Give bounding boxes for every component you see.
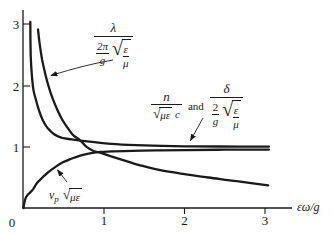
wave-parameters-figure: 3 2 1 0 1 2 3 εω/g λ 2π g √ ε μ	[0, 0, 333, 235]
sqrt-eps-over-mu: √ ε μ	[222, 100, 241, 130]
origin-label: 0	[9, 216, 16, 229]
y-tick-label-1: 1	[13, 141, 20, 154]
and-text: and	[188, 100, 204, 112]
lambda-symbol: λ	[108, 21, 120, 36]
vp-curve-label: vp √ με	[49, 188, 82, 204]
two-pi-over-g-fraction: 2π g	[96, 41, 109, 66]
x-tick-label-1: 1	[101, 214, 108, 227]
sqrt-mu-eps: √ με	[63, 188, 82, 203]
n-symbol: n	[160, 90, 173, 105]
vp-symbol: vp	[49, 188, 59, 204]
vp-label-arrow	[58, 170, 68, 182]
c-symbol: c	[175, 109, 180, 121]
y-tick-label-3: 3	[13, 18, 20, 31]
delta-fraction: δ 2 g √ ε μ	[210, 82, 243, 130]
x-tick-label-2: 2	[181, 214, 188, 227]
x-axis-label: εω/g	[297, 200, 320, 215]
two-over-g-fraction: 2 g	[212, 102, 220, 127]
y-tick-label-2: 2	[13, 80, 20, 93]
sqrt-eps-over-mu: √ ε μ	[112, 39, 131, 69]
n-fraction: n √ με c	[151, 90, 182, 122]
n-and-delta-curve-label: n √ με c and δ 2 g √	[151, 82, 243, 130]
delta-symbol: δ	[220, 82, 232, 97]
lambda-curve-label: λ 2π g √ ε μ	[94, 20, 133, 69]
sqrt-mu-eps: √ με	[153, 107, 172, 122]
x-tick-label-3: 3	[262, 214, 269, 227]
